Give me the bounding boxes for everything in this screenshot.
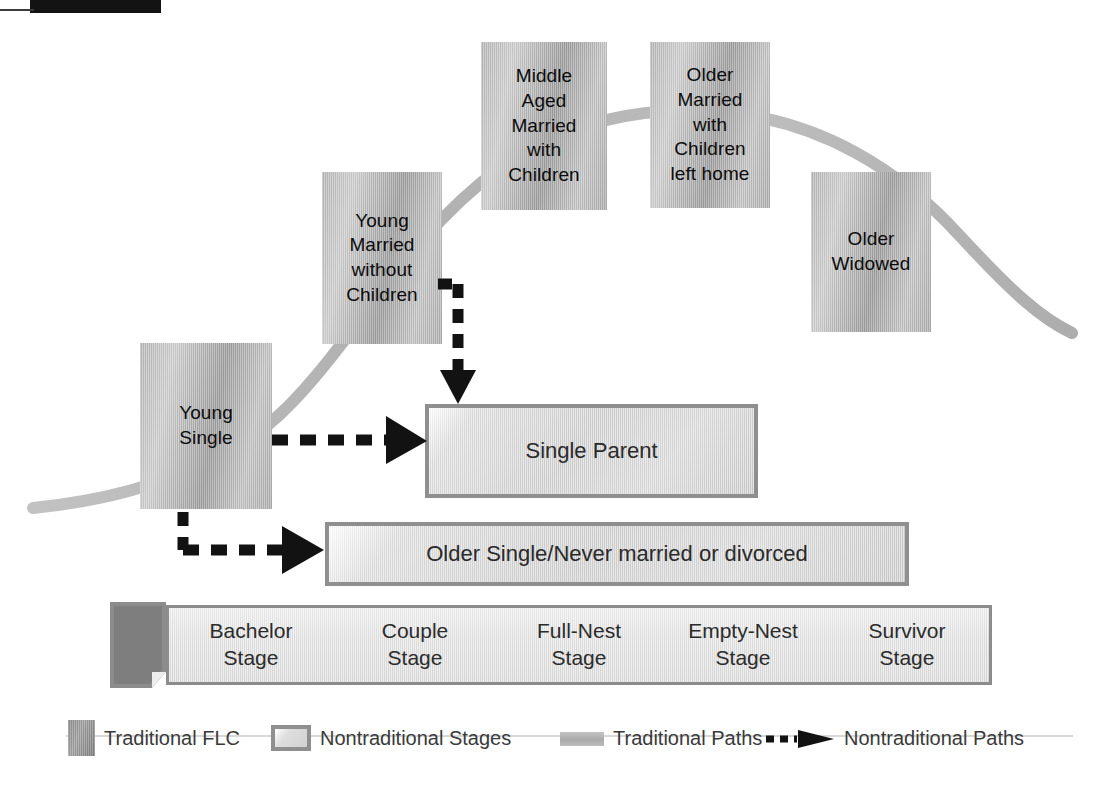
stages-bar-spine xyxy=(108,600,170,690)
nontraditional-box-older-single[interactable]: Older Single/Never married or divorced xyxy=(325,522,909,586)
flc-diagram-canvas: YoungSingle YoungMarriedwithoutChildren … xyxy=(0,0,1107,795)
nontraditional-stages-swatch-icon xyxy=(271,725,311,751)
stage-box-young-single[interactable]: YoungSingle xyxy=(140,343,272,509)
stage-cell-empty-nest-stage-line1: Empty-Nest xyxy=(688,618,798,645)
legend-item-nontraditional-paths[interactable]: Nontraditional Paths xyxy=(765,727,1024,750)
stage-cell-couple-stage-line2: Stage xyxy=(388,645,443,672)
stage-box-older-married-children-left-home-label: OlderMarriedwithChildrenleft home xyxy=(667,63,752,186)
nontraditional-box-older-single-label: Older Single/Never married or divorced xyxy=(426,541,808,567)
page-header-remnant xyxy=(0,0,161,14)
stage-cell-full-nest-stage-line2: Stage xyxy=(552,645,607,672)
stage-cell-bachelor-stage-line1: Bachelor xyxy=(210,618,293,645)
arrow-young-married-to-single-parent xyxy=(438,284,476,404)
stage-cell-bachelor-stage-line2: Stage xyxy=(224,645,279,672)
stage-cell-survivor-stage[interactable]: Survivor Stage xyxy=(825,608,989,682)
stage-box-older-married-children-left-home[interactable]: OlderMarriedwithChildrenleft home xyxy=(650,42,770,208)
legend-item-nontraditional-stages-label: Nontraditional Stages xyxy=(320,727,511,750)
stage-cell-empty-nest-stage-line2: Stage xyxy=(716,645,771,672)
stage-box-middle-aged-married-with-children-label: MiddleAgedMarriedwithChildren xyxy=(505,64,583,187)
stage-cell-couple-stage[interactable]: Couple Stage xyxy=(333,608,497,682)
legend-item-traditional-flc-label: Traditional FLC xyxy=(104,727,240,750)
arrow-young-single-to-older-single xyxy=(183,512,324,574)
legend: Traditional FLC Nontraditional Stages Tr… xyxy=(0,705,1107,795)
stage-cell-survivor-stage-line2: Stage xyxy=(880,645,935,672)
header-rule xyxy=(0,9,34,11)
legend-item-traditional-paths[interactable]: Traditional Paths xyxy=(560,727,762,750)
stage-box-older-widowed-label: OlderWidowed xyxy=(829,227,914,276)
header-black-bar xyxy=(30,0,161,13)
stage-box-older-widowed[interactable]: OlderWidowed xyxy=(811,172,931,332)
traditional-stages-bar: Bachelor Stage Couple Stage Full-Nest St… xyxy=(166,605,992,685)
nontraditional-box-single-parent-label: Single Parent xyxy=(525,438,657,464)
stage-cell-full-nest-stage-line1: Full-Nest xyxy=(537,618,621,645)
stage-box-young-married-without-children-label: YoungMarriedwithoutChildren xyxy=(343,209,421,308)
nontraditional-paths-dashed-arrow-icon xyxy=(765,728,835,750)
stage-box-young-married-without-children[interactable]: YoungMarriedwithoutChildren xyxy=(322,172,442,344)
stage-cell-couple-stage-line1: Couple xyxy=(382,618,449,645)
traditional-flc-swatch-icon xyxy=(68,720,95,756)
stage-cell-bachelor-stage[interactable]: Bachelor Stage xyxy=(169,608,333,682)
legend-item-nontraditional-paths-label: Nontraditional Paths xyxy=(844,727,1024,750)
stage-box-middle-aged-married-with-children[interactable]: MiddleAgedMarriedwithChildren xyxy=(481,42,607,210)
stage-box-young-single-label: YoungSingle xyxy=(176,401,236,450)
legend-item-traditional-flc[interactable]: Traditional FLC xyxy=(68,720,240,756)
traditional-paths-swatch-icon xyxy=(560,732,604,746)
stage-cell-full-nest-stage[interactable]: Full-Nest Stage xyxy=(497,608,661,682)
stage-cell-survivor-stage-line1: Survivor xyxy=(868,618,945,645)
arrow-young-single-to-single-parent xyxy=(272,416,427,464)
legend-item-nontraditional-stages[interactable]: Nontraditional Stages xyxy=(271,725,511,751)
stage-cell-empty-nest-stage[interactable]: Empty-Nest Stage xyxy=(661,608,825,682)
legend-item-traditional-paths-label: Traditional Paths xyxy=(613,727,762,750)
nontraditional-box-single-parent[interactable]: Single Parent xyxy=(425,404,758,498)
